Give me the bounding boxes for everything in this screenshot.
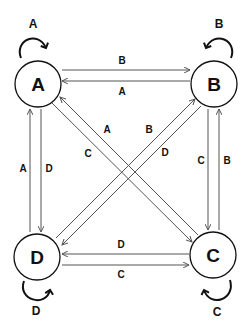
edge-label-c-to-a: A <box>103 124 110 135</box>
self-loop-d: D <box>23 281 50 318</box>
node-c: C <box>190 232 236 278</box>
loop-arrow-icon <box>20 39 46 58</box>
self-loop-a-label: A <box>29 17 38 31</box>
edge-label-a-to-b: B <box>118 55 125 66</box>
loop-arrow-icon <box>204 280 231 300</box>
node-a-label: A <box>31 74 45 95</box>
edge-b-to-d <box>62 106 201 245</box>
node-c-label: C <box>206 245 220 266</box>
node-d-label: D <box>30 247 44 268</box>
node-a: A <box>15 61 61 107</box>
self-loop-b-label: B <box>215 17 224 31</box>
edge-label-c-to-d: D <box>117 239 124 250</box>
loop-arrow-icon <box>206 39 232 58</box>
edge-label-a-to-d: D <box>45 163 52 174</box>
edge-label-b-to-d: D <box>161 147 168 158</box>
node-d: D <box>14 234 60 280</box>
edge-label-d-to-b: B <box>145 124 152 135</box>
edge-label-d-to-a: A <box>19 163 26 174</box>
node-b-label: B <box>207 74 221 95</box>
edge-label-b-to-c: C <box>197 155 204 166</box>
edge-label-a-to-c: C <box>84 148 91 159</box>
edge-label-b-to-a: A <box>118 86 125 97</box>
edge-c-to-a <box>60 97 198 235</box>
edge-d-to-b <box>56 99 195 238</box>
edge-label-d-to-c: C <box>117 269 124 280</box>
self-loop-b: B <box>206 17 232 58</box>
self-loop-c-label: C <box>213 305 222 319</box>
state-diagram: B A D C A D C B C A B D A B C D A <box>0 0 249 332</box>
self-loop-d-label: D <box>32 304 41 318</box>
loop-arrow-icon <box>23 281 50 300</box>
edge-label-c-to-b: B <box>223 155 230 166</box>
self-loop-c: C <box>204 280 231 319</box>
self-loop-a: A <box>20 17 46 58</box>
node-b: B <box>191 61 237 107</box>
